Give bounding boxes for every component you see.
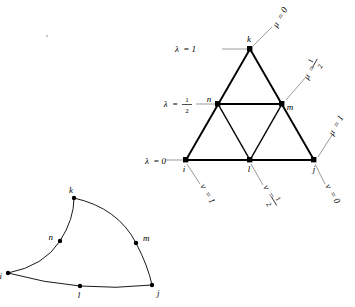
nu-half-numerator: 1	[274, 196, 283, 203]
svg-text:μ = 0: μ = 0	[270, 5, 290, 30]
lambda-value-1: 1	[192, 44, 197, 54]
mu-half-denominator: 2	[316, 62, 325, 69]
edge-m-l	[250, 104, 282, 160]
curve-k-j	[74, 198, 152, 285]
speck-mark	[46, 35, 48, 37]
lambda-label-1: λ = 1	[174, 44, 196, 54]
node-j-marker	[311, 157, 316, 162]
node-i-marker	[183, 157, 188, 162]
node-n-marker	[215, 101, 220, 106]
nu-label-0: ν = 0	[323, 182, 342, 206]
svg-text:λ = 1: λ = 1	[174, 44, 196, 54]
node-label-m-right: m	[287, 102, 294, 112]
svg-text:ν = 1: ν = 1	[198, 182, 217, 205]
svg-text:ν = 0: ν = 0	[323, 182, 342, 206]
node-k-left-marker	[72, 196, 76, 200]
figure-canvas: i j k l m n λ = 1 λ = 1 2 λ = 0	[0, 0, 355, 307]
curved-element-group: i j k l m n	[0, 185, 160, 300]
node-k-marker	[247, 46, 252, 51]
node-label-i-right: i	[183, 164, 186, 174]
lambda-symbol-0: λ	[144, 156, 149, 166]
node-l-marker	[247, 157, 252, 162]
lambda-value-0: 0	[162, 156, 167, 166]
node-label-n-right: n	[207, 94, 212, 104]
svg-text:λ = 0: λ = 0	[144, 156, 166, 166]
mu-tick-half	[286, 78, 305, 100]
edge-n-l	[218, 104, 250, 160]
node-l-left-marker	[78, 284, 82, 288]
lambda-half-denominator: 2	[185, 107, 189, 115]
nu-half-denominator: 2	[264, 201, 273, 208]
nu-tick-half	[251, 164, 263, 185]
svg-text:μ = 1: μ = 1	[326, 113, 346, 138]
node-m-left-marker	[134, 241, 138, 245]
node-label-j-right: j	[312, 164, 316, 174]
lambda-symbol-1: λ	[174, 44, 179, 54]
nu-tick-0	[315, 164, 325, 184]
lambda-label-0: λ = 0	[144, 156, 166, 166]
nu-label-half: ν = 1 2	[256, 182, 284, 211]
nu-label-1: ν = 1	[198, 182, 217, 205]
node-i-left-marker	[6, 271, 10, 275]
node-label-l-right: l	[248, 164, 251, 174]
node-label-i-left: i	[0, 271, 2, 281]
node-label-n-left: n	[49, 232, 54, 242]
mu-label-1: μ = 1	[326, 113, 346, 138]
svg-text:λ =: λ =	[163, 99, 178, 109]
node-j-left-marker	[150, 283, 154, 287]
nu-tick-1	[187, 164, 200, 184]
node-label-k-right: k	[247, 34, 252, 44]
svg-text:ν =: ν =	[261, 183, 277, 200]
node-label-j-left: j	[156, 288, 160, 298]
svg-text:μ =: μ =	[301, 63, 318, 82]
mu-tick-1	[318, 135, 332, 157]
mu-label-half: μ = 1 2	[298, 55, 326, 85]
reference-triangle-group: i j k l m n λ = 1 λ = 1 2 λ = 0	[144, 5, 346, 211]
lambda-half-numerator: 1	[185, 96, 189, 104]
node-label-l-left: l	[78, 290, 81, 300]
mu-tick-0	[253, 27, 272, 46]
lambda-symbol-half: λ	[163, 99, 168, 109]
node-n-left-marker	[58, 239, 62, 243]
lambda-label-half: λ = 1 2	[163, 96, 192, 115]
node-label-m-left: m	[143, 233, 150, 243]
mu-label-0: μ = 0	[270, 5, 290, 30]
curve-i-k	[8, 198, 74, 273]
node-label-k-left: k	[69, 185, 74, 195]
node-m-marker	[279, 101, 284, 106]
